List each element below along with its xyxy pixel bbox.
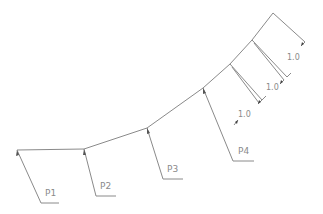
dimension-label-2: 1.0	[266, 83, 279, 92]
arrowhead-icon	[147, 128, 150, 134]
main-polyline	[17, 13, 273, 150]
point-label-p2: P2	[100, 181, 111, 191]
diagram-canvas: P1 P2 P3 P4 1.0 1.0 1.0	[0, 0, 323, 214]
point-label-p3: P3	[167, 164, 178, 174]
dimension-label-3: 1.0	[287, 53, 300, 62]
point-label-p1: P1	[45, 188, 56, 198]
arrowhead-icon	[203, 88, 206, 94]
dimension-label-1: 1.0	[238, 110, 251, 119]
point-label-p4: P4	[238, 146, 249, 156]
